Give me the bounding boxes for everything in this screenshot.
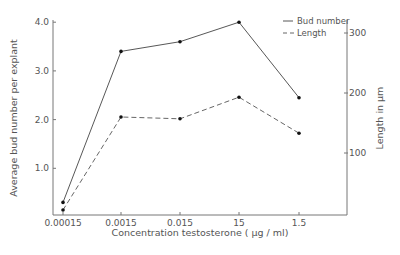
y-left-tick-label: 1.0 xyxy=(35,163,50,173)
y-left-tick-label: 2.0 xyxy=(35,115,50,125)
x-tick-label: 0.00015 xyxy=(44,218,81,228)
y-right-tick-label: 200 xyxy=(349,88,366,98)
data-point-length xyxy=(178,117,182,121)
data-point-length xyxy=(61,208,65,212)
y-left-axis-title: Average bud number per explant xyxy=(8,39,19,197)
y-right-tick-label: 100 xyxy=(349,148,366,158)
data-point-bud-number xyxy=(119,50,123,54)
data-point-bud-number xyxy=(237,20,241,24)
data-point-length xyxy=(237,95,241,99)
series-layer xyxy=(61,20,301,211)
data-point-length xyxy=(297,131,301,135)
tick-labels: 1.02.03.04.01002003000.000150.00150.0151… xyxy=(35,17,367,228)
data-point-bud-number xyxy=(297,96,301,100)
x-axis-title: Concentration testosterone ( µg / ml) xyxy=(112,227,289,238)
data-point-bud-number xyxy=(178,40,182,44)
line-chart: 1.02.03.04.01002003000.000150.00150.0151… xyxy=(0,0,400,255)
legend: Bud number Length xyxy=(283,16,350,38)
data-point-bud-number xyxy=(61,201,65,205)
y-left-tick-label: 3.0 xyxy=(35,66,50,76)
legend-label-bud-number: Bud number xyxy=(297,16,350,26)
series-line-length xyxy=(63,97,299,210)
y-right-tick-label: 300 xyxy=(349,28,366,38)
legend-label-length: Length xyxy=(297,28,326,38)
data-point-length xyxy=(119,115,123,119)
y-right-axis-title: Length in µm xyxy=(374,87,385,150)
axes-frame xyxy=(53,20,347,215)
axis-lines xyxy=(53,20,347,215)
y-left-tick-label: 4.0 xyxy=(35,17,50,27)
x-tick-label: 1.5 xyxy=(292,218,306,228)
